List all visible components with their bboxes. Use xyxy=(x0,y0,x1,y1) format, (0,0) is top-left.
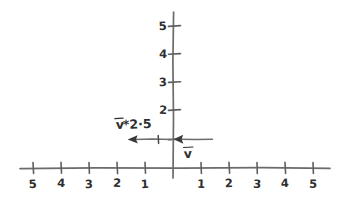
x-tick-label-5: 5 xyxy=(309,177,318,191)
vector-v-scaled-arrow xyxy=(128,135,173,143)
x-tick-label--3: 3 xyxy=(85,177,94,191)
y-axis-ticks xyxy=(169,26,181,140)
y-axis-tick-labels: 5 4 3 2 xyxy=(158,19,168,117)
x-tick--1 xyxy=(145,162,146,173)
x-tick-label--2: 2 xyxy=(113,176,122,190)
x-tick-2 xyxy=(229,162,230,173)
x-tick-label-2: 2 xyxy=(225,176,234,190)
y-tick-label-5: 5 xyxy=(158,19,167,34)
x-tick-label--1: 1 xyxy=(140,177,149,191)
vector-v-scaled-shaft xyxy=(135,139,173,140)
x-tick-label--4: 4 xyxy=(57,176,66,190)
figure-canvas: 5 4 3 2 1 1 2 3 4 5 5 xyxy=(0,0,345,198)
y-tick-3 xyxy=(169,82,181,83)
y-axis-group: 5 4 3 2 xyxy=(158,12,180,178)
vector-v-label-text: v xyxy=(183,146,192,161)
x-tick-label-4: 4 xyxy=(280,176,289,190)
vector-v-label: v xyxy=(183,146,193,161)
vector-v-label-overbar xyxy=(184,147,194,148)
x-tick-label--5: 5 xyxy=(28,177,37,192)
x-tick-4 xyxy=(285,162,286,173)
x-tick--4 xyxy=(61,162,62,173)
y-axis-line xyxy=(173,12,174,178)
vector-v-scaled-label-suffix: *2·5 xyxy=(123,116,152,132)
vector-v-arrow xyxy=(173,135,212,144)
x-tick-label-1: 1 xyxy=(197,177,206,191)
y-tick-4 xyxy=(169,54,181,55)
y-tick-label-4: 4 xyxy=(159,47,168,61)
x-tick-label-3: 3 xyxy=(253,177,262,191)
y-tick-label-3: 3 xyxy=(159,75,168,89)
y-tick-label-2: 2 xyxy=(159,103,168,117)
vector-number-line-diagram: 5 4 3 2 1 1 2 3 4 5 5 xyxy=(0,0,345,198)
y-tick-5 xyxy=(169,26,181,27)
x-tick--2 xyxy=(117,162,118,173)
y-tick-2 xyxy=(169,110,181,111)
x-tick--5 xyxy=(33,163,34,174)
x-axis-line xyxy=(20,168,330,169)
vector-v-scaled-label: v *2·5 xyxy=(115,116,152,132)
x-axis-group: 5 4 3 2 1 1 2 3 4 5 xyxy=(20,162,330,191)
